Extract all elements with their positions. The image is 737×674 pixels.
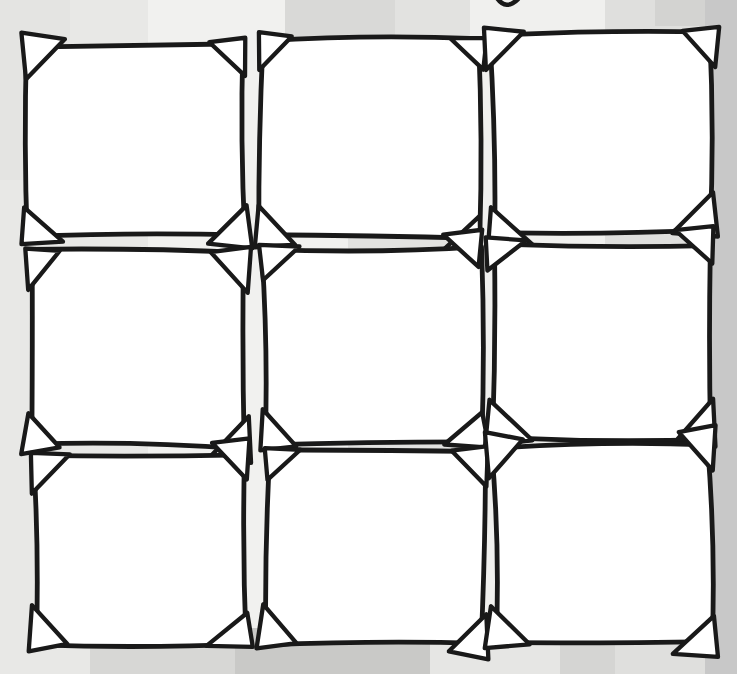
frame-border	[262, 247, 484, 445]
photo-frame	[259, 230, 489, 451]
frame-border	[33, 454, 246, 647]
frame-border	[265, 449, 486, 647]
photo-frame	[484, 425, 718, 658]
photo-frame	[21, 245, 253, 463]
photo-frame	[19, 30, 252, 251]
frame-border	[491, 443, 713, 643]
frame-border	[30, 248, 246, 448]
photo-frame	[255, 32, 487, 255]
scrapbook-page	[0, 0, 737, 674]
background-patch	[655, 0, 705, 26]
frame-border	[24, 44, 245, 237]
photo-frame	[485, 225, 717, 447]
photo-frame-grid-illustration	[0, 0, 737, 674]
frame-border	[259, 36, 482, 239]
frame-border	[490, 31, 713, 234]
photo-frame	[256, 444, 490, 659]
frame-border	[493, 244, 712, 441]
photo-frame	[27, 438, 253, 651]
photo-frame	[484, 26, 721, 248]
